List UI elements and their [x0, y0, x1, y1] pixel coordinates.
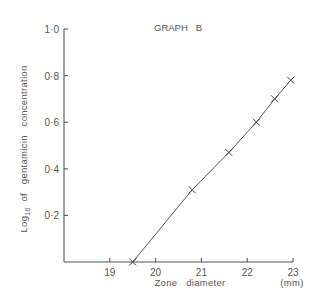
y-axis-label: Log10 of gentamicin concentration	[18, 65, 31, 232]
chart: GRAPH B 0·20·40·60·81·0 1920212223 Log10…	[0, 0, 320, 300]
data-point-x-marker	[189, 186, 196, 193]
series-group	[129, 77, 294, 266]
x-axis-unit-label: (mm)	[280, 277, 303, 288]
data-point-x-marker	[287, 77, 294, 84]
y-axis-label-subscript: 10	[24, 207, 31, 215]
data-point-x-marker	[271, 95, 278, 102]
data-point-x-marker	[253, 119, 260, 126]
y-tick-label: 0·8	[45, 71, 60, 82]
x-tick-label: 22	[242, 267, 254, 278]
y-tick-label: 0·6	[45, 117, 60, 128]
y-tick-label: 1·0	[45, 24, 60, 35]
x-axis-label: Zone diameter	[154, 277, 225, 288]
y-tick-label: 0·4	[45, 164, 60, 175]
chart-title: GRAPH B	[154, 22, 202, 33]
series-line	[133, 80, 291, 262]
y-tick-label: 0·2	[45, 210, 60, 221]
x-tick-label: 19	[104, 267, 116, 278]
data-point-x-marker	[225, 149, 232, 156]
